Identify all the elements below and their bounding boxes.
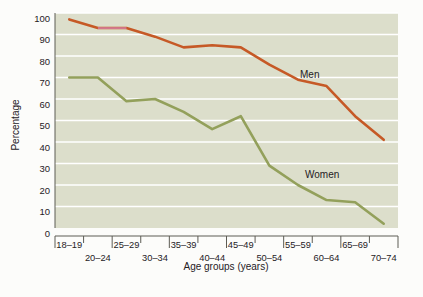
x-tick-label: 25–29 xyxy=(114,240,140,250)
x-tick-label: 65–69 xyxy=(342,240,368,250)
y-tick-label: 100 xyxy=(34,13,50,24)
line-chart: 0102030405060708090100 18–1920–2425–2930… xyxy=(0,0,423,297)
x-tick-label: 20–24 xyxy=(85,253,111,263)
x-axis-title: Age groups (years) xyxy=(183,261,268,272)
y-tick-label: 10 xyxy=(39,206,50,217)
x-tick-label: 60–64 xyxy=(314,253,340,263)
x-tick-label: 55–59 xyxy=(285,240,311,250)
y-tick-label: 30 xyxy=(39,163,50,174)
y-tick-label: 90 xyxy=(39,34,50,45)
y-tick-label: 80 xyxy=(39,56,50,67)
y-tick-label: 70 xyxy=(39,77,50,88)
x-tick-label: 45–49 xyxy=(228,240,254,250)
y-tick-label: 40 xyxy=(39,142,50,153)
series-label-women: Women xyxy=(305,169,339,180)
series-label-men: Men xyxy=(300,69,319,80)
x-tick-label: 70–74 xyxy=(371,253,397,263)
y-axis-title: Percentage xyxy=(10,99,21,151)
x-tick-label: 18–19 xyxy=(56,240,82,250)
y-tick-label: 60 xyxy=(39,99,50,110)
y-tick-label: 0 xyxy=(45,228,50,239)
x-tick-label: 35–39 xyxy=(171,240,197,250)
y-tick-label: 20 xyxy=(39,185,50,196)
chart-figure: 0102030405060708090100 18–1920–2425–2930… xyxy=(0,0,423,297)
y-tick-label: 50 xyxy=(39,120,50,131)
x-tick-label: 30–34 xyxy=(142,253,168,263)
